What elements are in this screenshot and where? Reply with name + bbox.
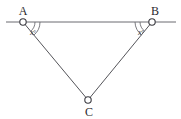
angle-label-b: x°	[137, 28, 145, 37]
point-label-b: B	[151, 4, 159, 18]
geometry-diagram: A B C x° x°	[0, 0, 181, 119]
angle-label-a: x°	[29, 28, 37, 37]
point-label-c: C	[85, 105, 93, 119]
vertex-marker-b	[149, 19, 155, 25]
geometry-figure-container: A B C x° x°	[0, 0, 181, 119]
vertex-marker-c	[85, 97, 91, 103]
point-label-a: A	[19, 4, 28, 18]
vertex-marker-a	[20, 19, 26, 25]
